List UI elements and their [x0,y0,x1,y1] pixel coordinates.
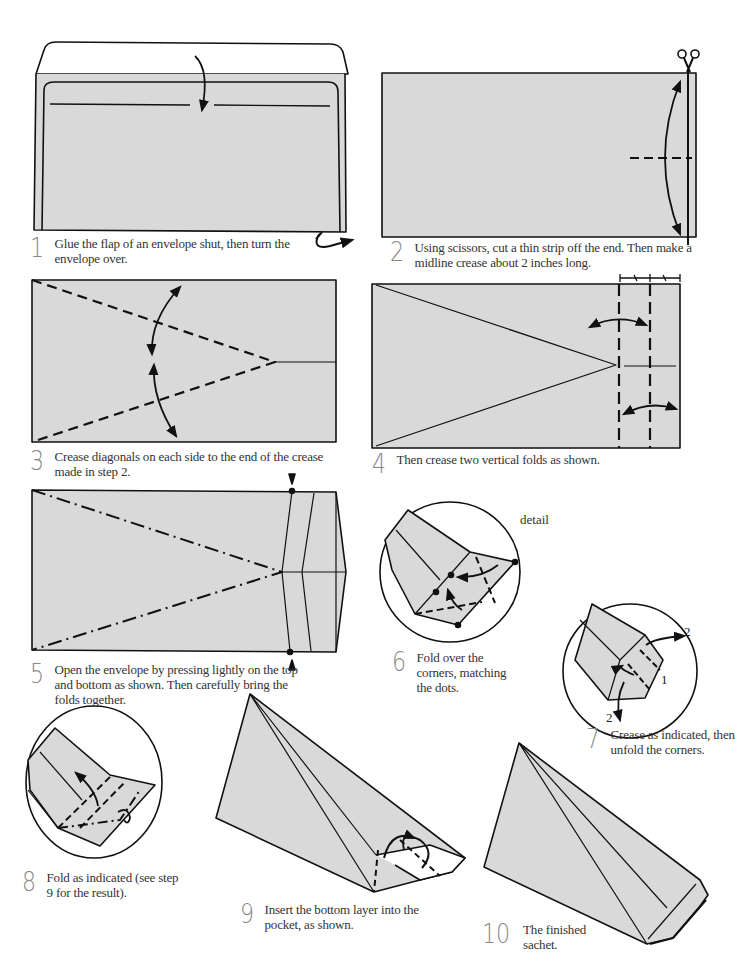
step-number: 9 [240,902,254,926]
step7-label-2-top: 2 [684,624,691,639]
step-text: Crease diagonals on each side to the end… [55,449,330,479]
step5-rectangle-drawing [32,474,346,670]
step-number: 2 [390,240,404,264]
step-text: Glue the flap of an envelope shut, then … [55,236,330,266]
step-text: Using scissors, cut a thin strip off the… [415,240,720,270]
step-number: 7 [586,727,600,751]
step-number: 5 [30,662,44,686]
step7-label-2-bottom: 2 [606,710,613,725]
scissors-icon [678,50,699,72]
step-caption-10: 10 The finished sachet. [482,922,602,952]
step2-rectangle-drawing [382,50,699,245]
step-text: Then crease two vertical folds as shown. [397,452,600,467]
equal-length-marks-icon [620,274,680,282]
step7-label-1: 1 [661,672,668,687]
step-text: Fold over the corners, matching the dots… [417,650,507,695]
step-number: 10 [482,922,510,946]
step-number: 3 [30,449,44,473]
step-number: 8 [22,870,36,894]
step-caption-7: 7 Crease as indicated, then unfold the c… [586,727,741,757]
step9-sachet-drawing [216,694,465,892]
step-caption-9: 9 Insert the bottom layer into the pocke… [240,902,420,932]
step4-rectangle-drawing [372,274,680,448]
step-caption-1: 1 Glue the flap of an envelope shut, the… [30,236,330,266]
step-number: 1 [30,236,44,260]
step7-detail-drawing [563,604,697,738]
detail-label: detail [520,512,549,528]
step6-detail-drawing [380,502,520,642]
step-text: Open the envelope by pressing lightly on… [55,662,300,707]
instruction-diagrams: 2 1 2 [0,0,741,964]
step-text: The finished sachet. [523,922,602,952]
step-caption-8: 8 Fold as indicated (see step 9 for the … [22,870,182,900]
step-caption-4: 4 Then crease two vertical folds as show… [372,452,692,476]
step8-detail-drawing [26,706,162,858]
step-number: 6 [392,650,406,674]
step-text: Fold as indicated (see step 9 for the re… [47,870,182,900]
step-caption-2: 2 Using scissors, cut a thin strip off t… [390,240,720,270]
step-text: Insert the bottom layer into the pocket,… [265,902,420,932]
step-text: Crease as indicated, then unfold the cor… [611,727,741,757]
step-caption-6: 6 Fold over the corners, matching the do… [392,650,507,695]
step3-rectangle-drawing [32,280,336,442]
step-number: 4 [372,452,386,476]
step-caption-3: 3 Crease diagonals on each side to the e… [30,449,330,479]
step1-envelope-drawing [34,42,348,232]
step10-sachet-drawing [484,743,708,944]
step-caption-5: 5 Open the envelope by pressing lightly … [30,662,300,707]
